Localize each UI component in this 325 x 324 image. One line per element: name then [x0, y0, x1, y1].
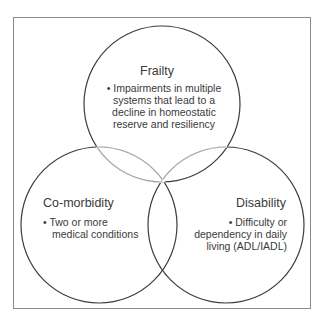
disability-title: Disability	[236, 196, 286, 210]
description-line: reserve and resiliency	[104, 118, 224, 130]
bullet: •	[229, 216, 233, 228]
frailty-title: Frailty	[140, 64, 174, 78]
comorbidity-description: • Two or more medical conditions	[43, 216, 143, 240]
description-line: decline in homeostatic	[104, 106, 224, 118]
frailty-description: • Impairments in multiple systems that l…	[104, 82, 224, 130]
description-line: systems that lead to a	[104, 94, 224, 106]
description-line: medical conditions	[43, 228, 143, 240]
disability-description: • Difficulty or dependency in daily livi…	[190, 216, 287, 252]
description-line: Impairments in multiple	[113, 82, 221, 94]
description-line: dependency in daily	[190, 228, 287, 240]
venn-diagram	[0, 0, 325, 324]
description-line: living (ADL/IADL)	[190, 240, 287, 252]
description-line: Difficulty or	[235, 216, 287, 228]
description-line: Two or more	[49, 216, 107, 228]
bullet: •	[43, 216, 47, 228]
comorbidity-title: Co-morbidity	[43, 196, 114, 210]
bullet: •	[107, 82, 111, 94]
